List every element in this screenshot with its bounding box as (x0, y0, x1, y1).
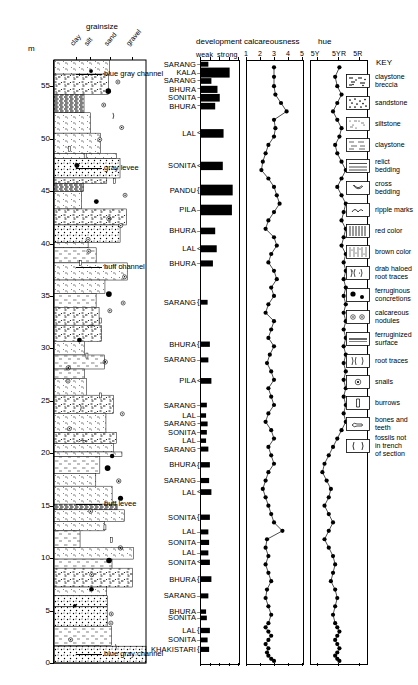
soil-label-sonita: SONITA (140, 538, 196, 547)
soil-label-bhura: BHURA (140, 340, 196, 349)
soil-label-sarang: SARANG (140, 355, 196, 364)
annotation-leader (76, 654, 102, 655)
annotation-gray-levee: gray levee (104, 163, 139, 172)
calcareousness-tick-1: 1 (244, 50, 248, 57)
development-bars (200, 60, 238, 663)
key-label-ferruginized-surface: ferruginized surface (375, 331, 412, 347)
soil-label-khakistari: KHAKISTARI (140, 645, 196, 654)
soil-label-bhura: BHURA (140, 226, 196, 235)
soil-label-lal: LAL (140, 244, 196, 253)
scale-label-15: 15 (30, 501, 50, 510)
key-swatch-ferruginous-concretions-icon (346, 288, 370, 302)
key-swatch-ferruginized-surface-icon (346, 332, 370, 346)
stratigraphic-column-figure: grainsize development calcareousness hue… (0, 0, 418, 685)
soil-label-sarang: SARANG (140, 476, 196, 485)
scale-label-30: 30 (30, 343, 50, 352)
hue-tick-5Y: 5Y (311, 50, 320, 57)
hue-tick-5R: 5R (353, 50, 362, 57)
key-label-cross-bedding: cross bedding (375, 180, 400, 196)
grainsize-tick-clay: clay (69, 33, 82, 47)
development-tick (229, 57, 230, 60)
soil-label-pila: PILA (140, 205, 196, 214)
annotation-leader (76, 504, 102, 505)
grainsize-tick-gravel: gravel (125, 28, 143, 47)
soil-label-pila: PILA (140, 376, 196, 385)
calcareousness-axis-tick (302, 57, 303, 60)
soil-label-sonita: SONITA (140, 613, 196, 622)
key-label-sandstone: sandstone (375, 99, 407, 107)
key-label-ripple-marks: ripple marks (375, 206, 413, 214)
annotation-buff-channel: buff channel (104, 262, 145, 271)
key-label-bones-and-teeth: bones and teeth (375, 416, 408, 432)
soil-label-lal: LAL (140, 626, 196, 635)
calcareousness-scatter (246, 60, 302, 663)
soil-label-bhura: BHURA (140, 102, 196, 111)
hue-axis-tick (359, 57, 360, 60)
scale-label-0: 0 (30, 658, 50, 667)
scale-label-40: 40 (30, 239, 50, 248)
soil-label-sarang: SARANG (140, 445, 196, 454)
meters-unit-label: m (28, 44, 35, 53)
scale-label-5: 5 (30, 606, 50, 615)
hue-axis-tick (359, 663, 360, 666)
soil-label-lal: LAL (140, 548, 196, 557)
scale-label-25: 25 (30, 396, 50, 405)
grainsize-tick-sand: sand (103, 31, 118, 47)
scale-label-50: 50 (30, 134, 50, 143)
key-label-relict-bedding: relict bedding (375, 158, 400, 174)
calcareousness-axis-tick (288, 663, 289, 666)
annotation-leader (76, 168, 102, 169)
soil-label-sarang: SARANG (140, 298, 196, 307)
development-tick (210, 663, 211, 666)
key-label-breccia: claystone breccia (375, 73, 405, 89)
hue-title: hue (318, 37, 331, 46)
calcareousness-axis-tick (302, 663, 303, 666)
scale-label-45: 45 (30, 186, 50, 195)
key-label-snails: snails (375, 378, 393, 386)
key-swatch-claystone-icon (346, 138, 370, 152)
key-swatch-cross-bedding-icon (346, 181, 370, 195)
hue-axis-tick (317, 57, 318, 60)
development-strong-label: strong (217, 51, 238, 58)
soil-label-lal: LAL (140, 488, 196, 497)
key-swatch-drab-haloed-root-traces-icon (346, 266, 370, 280)
scale-tick (50, 663, 54, 664)
development-tick (210, 57, 211, 60)
soil-label-pandu: PANDU (140, 186, 196, 195)
key-swatch-breccia-icon (346, 74, 370, 88)
annotation-leader (76, 74, 102, 75)
development-tick (219, 57, 220, 60)
soil-label-sonita: SONITA (140, 635, 196, 644)
key-swatch-red-color-icon (346, 224, 370, 238)
key-swatch-siltstone-icon (346, 117, 370, 131)
key-swatch-snails-icon (346, 375, 370, 389)
key-swatch-relict-bedding-icon (346, 159, 370, 173)
calcareousness-axis-tick (260, 663, 261, 666)
soil-label-sonita: SONITA (140, 513, 196, 522)
development-title: development (196, 37, 242, 46)
development-tick (238, 57, 239, 60)
hue-axis-tick (338, 663, 339, 666)
key-swatch-calcareous-nodules-icon (346, 310, 370, 324)
soil-label-lal: LAL (140, 527, 196, 536)
scale-label-10: 10 (30, 553, 50, 562)
calcareousness-tick-4: 4 (286, 50, 290, 57)
development-tick (200, 57, 201, 60)
calcareousness-axis-tick (246, 663, 247, 666)
hue-tick-5YR: 5YR (332, 50, 346, 57)
development-tick (219, 663, 220, 666)
soil-label-sonita: SONITA (140, 558, 196, 567)
grainsize-tick-silt: silt (83, 36, 94, 47)
key-swatch-burrows-icon (346, 396, 370, 410)
calcareousness-axis-tick (288, 57, 289, 60)
soil-label-bhura: BHURA (140, 259, 196, 268)
soil-label-bhura: BHURA (140, 575, 196, 584)
key-label-brown-color: brown color (375, 248, 411, 256)
key-title: KEY (376, 58, 392, 67)
calcareousness-axis-tick (246, 57, 247, 60)
key-label-siltstone: siltstone (375, 120, 401, 128)
key-swatch-ripple-marks-icon (346, 203, 370, 217)
scale-label-20: 20 (30, 448, 50, 457)
key-swatch-brown-color-icon (346, 245, 370, 259)
calcareousness-axis-tick (260, 57, 261, 60)
